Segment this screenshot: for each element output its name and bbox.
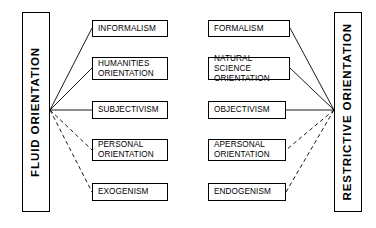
connector-line [50, 68, 92, 110]
node-box[interactable]: SUBJECTIVISM [92, 101, 168, 119]
node-label: HUMANITIES ORIENTATION [98, 59, 154, 79]
pole-fluid-orientation-label: FLUID ORIENTATION [30, 47, 42, 177]
connector-line [50, 28, 92, 110]
node-label: NATURAL SCIENCE ORIENTATION [214, 54, 286, 84]
connector-line [286, 110, 334, 192]
node-box[interactable]: EXOGENISM [92, 183, 168, 201]
pole-restrictive-orientation[interactable]: RESTRICTIVE ORIENTATION [334, 12, 362, 212]
node-label: FORMALISM [214, 24, 264, 34]
node-label: APERSONAL ORIENTATION [214, 140, 270, 160]
pole-restrictive-orientation-label: RESTRICTIVE ORIENTATION [342, 23, 354, 200]
node-label: ENDOGENISM [214, 187, 271, 197]
connector-line [290, 28, 334, 110]
node-box[interactable]: APERSONAL ORIENTATION [208, 139, 286, 161]
connector-line [50, 110, 92, 150]
node-label: PERSONAL ORIENTATION [98, 140, 154, 160]
connector-line [286, 110, 334, 150]
node-label: SUBJECTIVISM [98, 105, 159, 115]
node-box[interactable]: FORMALISM [208, 20, 290, 37]
node-box[interactable]: INFORMALISM [92, 20, 168, 37]
node-box[interactable]: NATURAL SCIENCE ORIENTATION [208, 57, 290, 80]
connector-edges [0, 0, 376, 228]
pole-fluid-orientation[interactable]: FLUID ORIENTATION [22, 12, 50, 212]
node-box[interactable]: HUMANITIES ORIENTATION [92, 57, 168, 80]
node-box[interactable]: PERSONAL ORIENTATION [92, 139, 168, 161]
node-box[interactable]: ENDOGENISM [208, 183, 286, 201]
connector-line [290, 68, 334, 110]
node-label: INFORMALISM [98, 24, 156, 34]
node-box[interactable]: OBJECTIVISM [208, 101, 286, 119]
node-label: OBJECTIVISM [214, 105, 270, 115]
diagram-canvas: FLUID ORIENTATION RESTRICTIVE ORIENTATIO… [0, 0, 376, 228]
connector-line [50, 110, 92, 192]
node-label: EXOGENISM [98, 187, 149, 197]
